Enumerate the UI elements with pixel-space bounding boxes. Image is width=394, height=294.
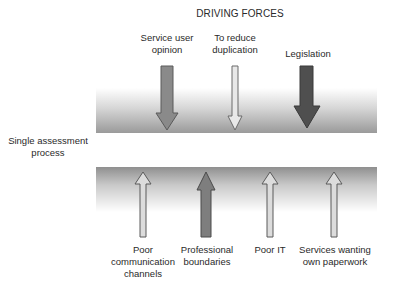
arrow-up-icon [135, 172, 151, 237]
arrow-down-icon [228, 66, 242, 130]
label-line: channels [100, 268, 186, 280]
arrow-up-icon [326, 172, 342, 237]
restraining-force-label-poor-it: Poor IT [245, 244, 295, 256]
label-line: own paperwork [295, 256, 375, 268]
restraining-force-label-services-wanting-own-paperwork: Services wanting own paperwork [295, 244, 375, 268]
arrow-up-icon [262, 172, 278, 237]
restraining-force-label-professional-boundaries: Professional boundaries [170, 244, 244, 268]
arrow-up-icon [197, 172, 215, 237]
label-line: Poor IT [245, 244, 295, 256]
label-line: boundaries [170, 256, 244, 268]
arrow-down-icon [156, 66, 178, 130]
label-line: Services wanting [295, 244, 375, 256]
arrow-down-icon [294, 66, 320, 128]
label-line: Professional [170, 244, 244, 256]
